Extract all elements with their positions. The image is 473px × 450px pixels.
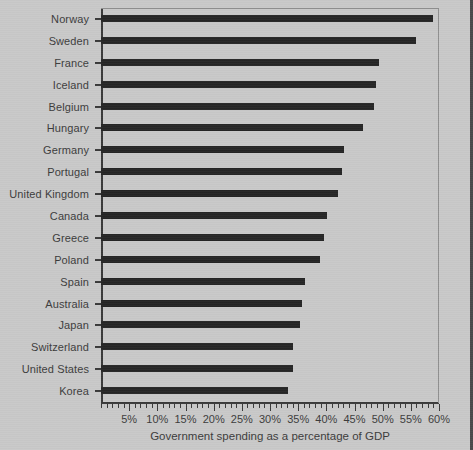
y-axis-label-france: France — [54, 57, 89, 69]
bar — [101, 103, 374, 110]
x-axis-tick-label: 30% — [259, 412, 281, 426]
y-axis-label-poland: Poland — [54, 254, 89, 266]
y-axis-tick — [95, 237, 101, 239]
x-axis-tick-label: 40% — [315, 412, 337, 426]
x-axis-major-tick — [326, 404, 327, 411]
x-axis-major-tick — [411, 404, 412, 411]
y-axis-label-switzerland: Switzerland — [31, 341, 89, 353]
y-axis-tick — [95, 215, 101, 217]
y-axis-label-united-kingdom: United Kingdom — [9, 188, 89, 200]
y-axis-label-portugal: Portugal — [47, 166, 89, 178]
x-axis-tick-label: 5% — [121, 412, 137, 426]
x-axis-minor-tick — [287, 404, 288, 408]
bar — [101, 300, 302, 307]
x-axis-minor-tick — [169, 404, 170, 408]
x-axis-minor-tick — [400, 404, 401, 408]
y-axis-tick — [95, 149, 101, 151]
bar-row — [101, 52, 439, 74]
bar-row — [101, 205, 439, 227]
bar-row — [101, 117, 439, 139]
x-axis-tick-label: 55% — [400, 412, 422, 426]
bar — [101, 387, 288, 394]
x-axis-minor-tick — [416, 404, 417, 408]
x-axis-tick-label: 20% — [203, 412, 225, 426]
x-axis-minor-tick — [349, 404, 350, 408]
x-axis-minor-tick — [281, 404, 282, 408]
x-axis-minor-tick — [366, 404, 367, 408]
y-axis-tick — [95, 106, 101, 108]
bar-row — [101, 139, 439, 161]
x-axis-minor-tick — [405, 404, 406, 408]
bar — [101, 212, 327, 219]
y-axis-label-iceland: Iceland — [53, 79, 89, 91]
x-axis-major-tick — [186, 404, 187, 411]
x-axis-tick-label: 25% — [231, 412, 253, 426]
x-axis-minor-tick — [247, 404, 248, 408]
x-axis-tick-label: 50% — [372, 412, 394, 426]
x-axis-tick-labels: 5%10%15%20%25%30%35%40%45%50%55%60% — [0, 412, 473, 428]
y-axis-label-korea: Korea — [59, 385, 89, 397]
y-axis-tick — [95, 281, 101, 283]
y-axis-tick — [95, 84, 101, 86]
x-axis-minor-tick — [309, 404, 310, 408]
x-axis-minor-tick — [112, 404, 113, 408]
y-axis-tick — [95, 346, 101, 348]
x-axis-minor-tick — [135, 404, 136, 408]
y-axis-label-sweden: Sweden — [49, 35, 89, 47]
x-axis-minor-tick — [208, 404, 209, 408]
bar — [101, 81, 376, 88]
bar — [101, 168, 342, 175]
y-axis-tick — [95, 62, 101, 64]
x-axis-tick-label: 35% — [287, 412, 309, 426]
x-axis-tick-label: 15% — [174, 412, 196, 426]
x-axis-minor-tick — [197, 404, 198, 408]
bar-row — [101, 271, 439, 293]
bar-row — [101, 293, 439, 315]
x-axis-tick-label: 45% — [343, 412, 365, 426]
x-axis-minor-tick — [321, 404, 322, 408]
bar-row — [101, 380, 439, 402]
x-axis-minor-tick — [360, 404, 361, 408]
y-axis-tick — [95, 18, 101, 20]
y-axis-label-germany: Germany — [43, 144, 89, 156]
x-axis-minor-tick — [276, 404, 277, 408]
bar — [101, 37, 416, 44]
y-axis-tick — [95, 193, 101, 195]
bar-row — [101, 96, 439, 118]
x-axis-minor-tick — [315, 404, 316, 408]
x-axis-minor-tick — [124, 404, 125, 408]
bar-chart: NorwaySwedenFranceIcelandBelgiumHungaryG… — [0, 0, 473, 450]
y-axis-label-norway: Norway — [51, 13, 89, 25]
x-axis-minor-tick — [422, 404, 423, 408]
x-axis-major-tick — [129, 404, 130, 411]
x-axis-major-tick — [439, 404, 440, 411]
x-axis-minor-tick — [202, 404, 203, 408]
bar — [101, 321, 300, 328]
x-axis-minor-tick — [140, 404, 141, 408]
y-axis-label-canada: Canada — [50, 210, 89, 222]
bar-series — [101, 8, 439, 402]
bar — [101, 343, 293, 350]
bar-row — [101, 249, 439, 271]
x-axis-minor-tick — [101, 404, 102, 408]
x-axis-minor-tick — [174, 404, 175, 408]
bar — [101, 256, 320, 263]
y-axis-category-labels: NorwaySwedenFranceIcelandBelgiumHungaryG… — [0, 8, 97, 402]
bar-row — [101, 227, 439, 249]
y-axis-ticks — [95, 8, 101, 402]
x-axis-minor-tick — [118, 404, 119, 408]
x-axis-tick-label: 60% — [428, 412, 450, 426]
x-axis-minor-tick — [388, 404, 389, 408]
y-axis-tick — [95, 127, 101, 129]
y-axis-label-belgium: Belgium — [49, 101, 89, 113]
bar-row — [101, 30, 439, 52]
x-axis-minor-tick — [428, 404, 429, 408]
x-axis-minor-tick — [107, 404, 108, 408]
x-axis-minor-tick — [236, 404, 237, 408]
x-axis-major-tick — [214, 404, 215, 411]
x-axis-minor-tick — [146, 404, 147, 408]
y-axis-tick — [95, 40, 101, 42]
bar-row — [101, 161, 439, 183]
x-axis-minor-tick — [231, 404, 232, 408]
x-axis-minor-tick — [338, 404, 339, 408]
